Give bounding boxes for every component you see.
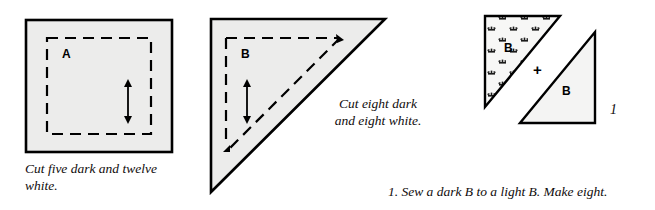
triangle-piece-label: B [241,47,250,61]
step-instruction-caption: 1. Sew a dark B to a light B. Make eight… [388,183,653,200]
pieced-unit-assembly: B B + [485,16,595,123]
square-piece-label: A [62,47,71,61]
dark-triangle-label: B [504,41,513,55]
figure-number-label: 1 [610,102,617,118]
square-caption: Cut five dark and twelve white. [25,160,205,194]
square-template-a: A [26,20,172,152]
diagram-page: A B B B + Cut five dark and twelve w [0,0,655,210]
light-triangle-label: B [562,84,571,98]
plus-operator: + [533,61,542,78]
triangle-caption: Cut eight dark and eight white. [318,95,438,129]
